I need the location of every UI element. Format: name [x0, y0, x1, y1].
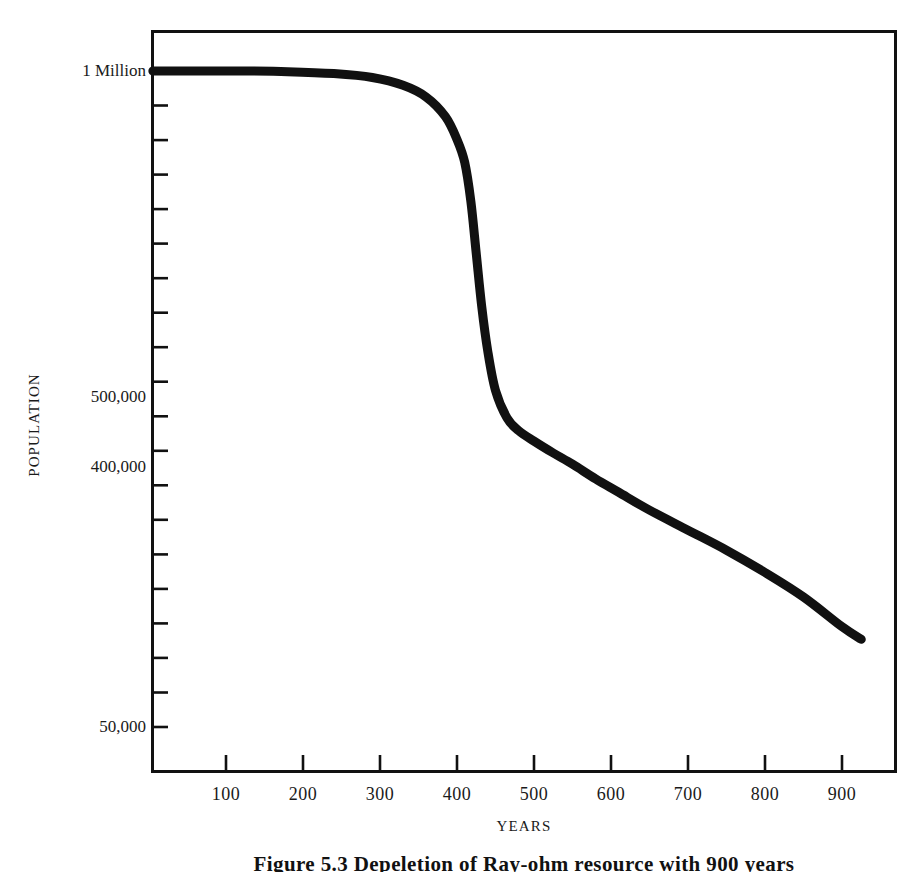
- ytick-label-1million: 1 Million: [82, 62, 146, 79]
- xtick-label-800: 800: [730, 784, 800, 804]
- figure-container: 1 Million 500,000 400,000 50,000 1002003…: [0, 0, 918, 872]
- xtick-label-600: 600: [576, 784, 646, 804]
- xtick-label-700: 700: [653, 784, 723, 804]
- xtick-label-400: 400: [422, 784, 492, 804]
- xtick-label-900: 900: [807, 784, 877, 804]
- ytick-label-50000: 50,000: [99, 718, 146, 735]
- y-axis-title-text: POPULATION: [26, 373, 43, 477]
- x-axis-tick-labels: 100200300400500600700800900: [0, 784, 918, 814]
- figure-caption: Figure 5.3 Depeletion of Ray-ohm resourc…: [152, 852, 896, 872]
- xtick-label-200: 200: [268, 784, 338, 804]
- ytick-label-400000: 400,000: [91, 458, 146, 475]
- ytick-label-500000: 500,000: [91, 388, 146, 405]
- plot-frame: [153, 32, 896, 772]
- xtick-label-300: 300: [345, 784, 415, 804]
- y-axis-title: POPULATION: [16, 300, 52, 550]
- x-axis-title: YEARS: [152, 818, 896, 835]
- xtick-label-100: 100: [191, 784, 261, 804]
- xtick-label-500: 500: [499, 784, 569, 804]
